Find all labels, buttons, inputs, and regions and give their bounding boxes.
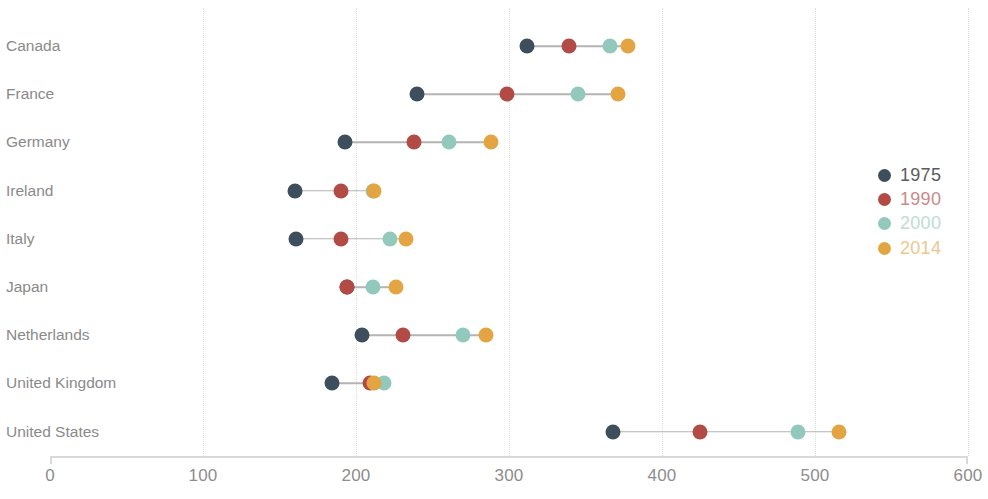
gridline <box>203 8 204 456</box>
legend-swatch-icon <box>878 169 891 182</box>
data-point[interactable] <box>287 183 302 198</box>
data-point[interactable] <box>570 87 585 102</box>
data-point[interactable] <box>324 376 339 391</box>
x-axis-tick-label: 400 <box>648 466 677 486</box>
data-point[interactable] <box>382 231 397 246</box>
data-point[interactable] <box>339 280 354 295</box>
data-point[interactable] <box>561 39 576 54</box>
data-point[interactable] <box>832 424 847 439</box>
connector-line <box>417 93 617 95</box>
data-point[interactable] <box>388 280 403 295</box>
data-point[interactable] <box>500 87 515 102</box>
data-point[interactable] <box>610 87 625 102</box>
gridline <box>356 8 357 456</box>
data-point[interactable] <box>355 328 370 343</box>
data-point[interactable] <box>483 135 498 150</box>
category-label: Canada <box>6 37 60 55</box>
x-axis-tick-label: 600 <box>954 466 983 486</box>
data-point[interactable] <box>479 328 494 343</box>
legend-item-2000[interactable]: 2000 <box>878 213 941 234</box>
data-point[interactable] <box>602 39 617 54</box>
data-point[interactable] <box>365 280 380 295</box>
legend-item-1975[interactable]: 1975 <box>878 165 941 186</box>
category-label: United Kingdom <box>6 374 116 392</box>
category-label: Germany <box>6 133 70 151</box>
x-axis-tick-label: 200 <box>342 466 371 486</box>
data-point[interactable] <box>456 328 471 343</box>
legend-swatch-icon <box>878 193 891 206</box>
data-point[interactable] <box>289 231 304 246</box>
x-axis-tick-label: 100 <box>189 466 218 486</box>
data-point[interactable] <box>407 135 422 150</box>
data-point[interactable] <box>367 376 382 391</box>
data-point[interactable] <box>338 135 353 150</box>
legend-label: 2000 <box>900 213 941 234</box>
data-point[interactable] <box>410 87 425 102</box>
plot-area <box>0 0 988 499</box>
data-point[interactable] <box>399 231 414 246</box>
gridline <box>968 8 969 456</box>
legend-label: 2014 <box>900 238 941 259</box>
legend-swatch-icon <box>878 242 891 255</box>
x-axis-line <box>50 456 968 458</box>
x-axis-tick-label: 300 <box>495 466 524 486</box>
data-point[interactable] <box>333 183 348 198</box>
category-label: United States <box>6 423 99 441</box>
gridline <box>662 8 663 456</box>
data-point[interactable] <box>442 135 457 150</box>
x-axis-end-cap <box>50 456 52 464</box>
data-point[interactable] <box>333 231 348 246</box>
data-point[interactable] <box>621 39 636 54</box>
x-axis-tick-label: 500 <box>801 466 830 486</box>
x-axis-tick-label: 0 <box>45 466 55 486</box>
legend-label: 1990 <box>900 189 941 210</box>
dot-plot-chart: CanadaFranceGermanyIrelandItalyJapanNeth… <box>0 0 988 499</box>
data-point[interactable] <box>367 183 382 198</box>
x-axis-end-cap <box>966 456 968 464</box>
data-point[interactable] <box>606 424 621 439</box>
category-label: Italy <box>6 230 34 248</box>
category-label: Netherlands <box>6 326 90 344</box>
data-point[interactable] <box>693 424 708 439</box>
data-point[interactable] <box>791 424 806 439</box>
legend-swatch-icon <box>878 217 891 230</box>
category-label: Ireland <box>6 182 53 200</box>
category-label: Japan <box>6 278 48 296</box>
data-point[interactable] <box>520 39 535 54</box>
legend-item-2014[interactable]: 2014 <box>878 238 941 259</box>
legend-item-1990[interactable]: 1990 <box>878 189 941 210</box>
category-label: France <box>6 85 54 103</box>
legend-label: 1975 <box>900 165 941 186</box>
gridline <box>815 8 816 456</box>
data-point[interactable] <box>396 328 411 343</box>
gridline <box>509 8 510 456</box>
